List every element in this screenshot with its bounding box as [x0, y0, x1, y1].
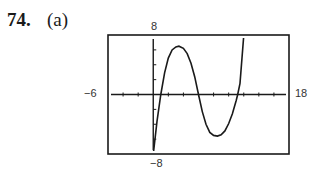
graph-plot [0, 0, 314, 171]
